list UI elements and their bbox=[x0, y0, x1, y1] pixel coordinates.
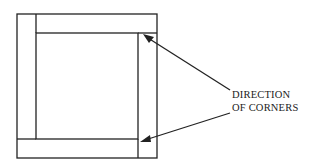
direction-label: DIRECTION OF CORNERS bbox=[232, 88, 298, 114]
arrow-line-top bbox=[148, 38, 230, 90]
arrowhead-bottom-icon bbox=[140, 135, 151, 142]
frame-diagram bbox=[0, 0, 311, 168]
arrowhead-top-icon bbox=[143, 34, 154, 43]
inner-square bbox=[36, 33, 138, 139]
outer-square bbox=[17, 14, 157, 158]
label-line-2: OF CORNERS bbox=[232, 101, 298, 114]
label-line-1: DIRECTION bbox=[232, 88, 298, 101]
arrow-line-bottom bbox=[145, 113, 230, 140]
